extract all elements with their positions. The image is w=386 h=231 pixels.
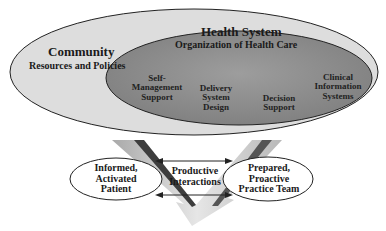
chronic-care-model-diagram xyxy=(0,0,386,231)
health-system-title: Health System xyxy=(201,25,282,39)
community-subtitle: Resources and Policies xyxy=(29,61,125,72)
component-delivery-system-design: Delivery System Design xyxy=(194,84,238,112)
line: Practice Team xyxy=(232,184,306,195)
line: Systems xyxy=(310,92,366,101)
line: Prepared, xyxy=(232,163,306,174)
patient-label: Informed, Activated Patient xyxy=(82,163,150,195)
health-system-subtitle: Organization of Health Care xyxy=(175,40,297,51)
community-title: Community xyxy=(48,45,114,59)
line: Support xyxy=(128,93,186,102)
line: Patient xyxy=(82,184,150,195)
line: Productive xyxy=(162,166,228,177)
line: Design xyxy=(194,103,238,112)
team-label: Prepared, Proactive Practice Team xyxy=(232,163,306,195)
component-clinical-information-systems: Clinical Information Systems xyxy=(310,73,366,101)
component-self-management-support: Self- Management Support xyxy=(128,74,186,102)
line: Support xyxy=(256,103,302,112)
line: Interactions xyxy=(162,177,228,188)
line: Informed, xyxy=(82,163,150,174)
interactions-label: Productive Interactions xyxy=(162,166,228,187)
component-decision-support: Decision Support xyxy=(256,94,302,113)
